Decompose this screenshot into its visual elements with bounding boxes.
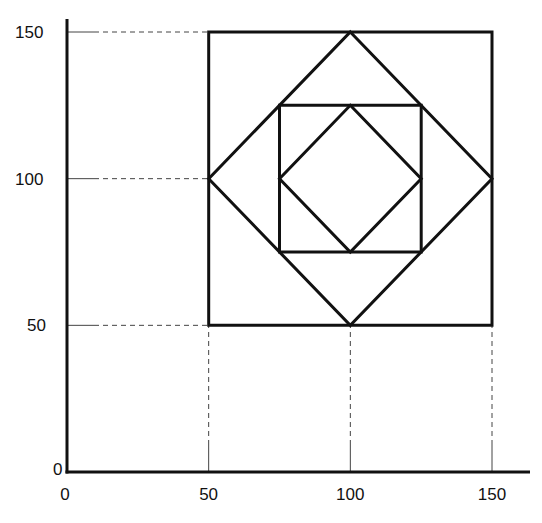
tick-labels: 050100150050100150: [15, 23, 506, 504]
shapes: [209, 32, 492, 325]
outer-diamond: [209, 32, 492, 325]
x-tick-label: 0: [60, 485, 69, 504]
outer-square: [209, 32, 492, 325]
x-tick-label: 50: [199, 485, 218, 504]
y-tick-label: 150: [15, 23, 43, 42]
y-tick-label: 50: [27, 316, 46, 335]
x-tick-label: 100: [336, 485, 364, 504]
inner-square: [280, 105, 422, 252]
y-tick-label: 0: [53, 460, 62, 479]
inner-diamond: [280, 105, 422, 252]
y-tick-label: 100: [15, 170, 43, 189]
nested-squares-diagram: 050100150050100150: [0, 0, 542, 523]
x-tick-label: 150: [478, 485, 506, 504]
